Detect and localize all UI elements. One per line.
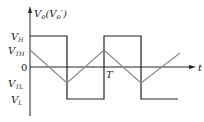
comparator-waveform-diagram: Vo(Vo′) VH VTH 0 VTL VL T t (0, 0, 204, 122)
level-label-vth: VTH (8, 45, 25, 57)
y-axis-arrow-icon (28, 6, 32, 13)
level-label-vh: VH (11, 31, 24, 43)
level-label-zero: 0 (21, 62, 27, 73)
x-axis-label: t (198, 62, 203, 73)
y-axis-label: Vo(Vo′) (34, 8, 67, 21)
level-label-vtl: VTL (8, 78, 23, 90)
level-label-vl: VL (11, 94, 22, 106)
period-label: T (106, 69, 114, 80)
x-axis-arrow-icon (189, 65, 196, 69)
